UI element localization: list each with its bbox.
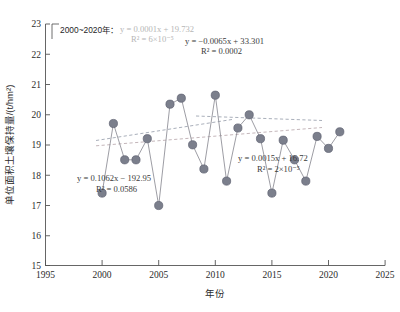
equation-lower-left: y = 0.1062x − 192.95 xyxy=(77,173,151,183)
x-tick-label: 2020 xyxy=(319,270,338,280)
period-label: 2000~2020年： xyxy=(60,25,118,35)
x-axis-ticks: 1995 2000 2005 2010 2015 2020 2025 xyxy=(36,260,395,280)
data-point xyxy=(109,119,117,127)
x-tick-label: 2025 xyxy=(376,270,395,280)
data-point xyxy=(200,165,208,173)
y-axis-ticks: 23 22 21 20 19 18 17 16 15 xyxy=(32,19,51,271)
y-axis-title: 单位面积土壤保持量/(t/hm²) xyxy=(4,85,15,206)
series-line xyxy=(102,95,340,205)
equation-lower-left-r2: R² = 0.0586 xyxy=(96,184,138,194)
x-tick-label: 2000 xyxy=(93,270,112,280)
data-point xyxy=(211,91,219,99)
equation-upper: y = −0.0065x + 33.301 xyxy=(185,36,264,46)
data-point xyxy=(223,177,231,185)
equation-faint-r2: R² = 6×10⁻⁵ xyxy=(131,34,174,44)
soil-conservation-line-chart: 23 22 21 20 19 18 17 16 15 1995 2000 200… xyxy=(0,0,400,312)
data-point xyxy=(177,94,185,102)
trendline-upper xyxy=(196,116,322,121)
equation-lower-right-r2: R² = 2×10⁻⁵ xyxy=(257,164,300,174)
equation-lower-right: y = 0.0015x + 16.72 xyxy=(238,153,308,163)
data-point xyxy=(302,177,310,185)
data-point xyxy=(245,111,253,119)
chart-figure: 23 22 21 20 19 18 17 16 15 1995 2000 200… xyxy=(0,0,400,312)
data-point xyxy=(256,135,264,143)
equation-faint: y = 0.0001x + 19.732 xyxy=(120,24,194,34)
data-point xyxy=(324,144,332,152)
x-axis-title: 年份 xyxy=(205,288,225,299)
data-point xyxy=(121,156,129,164)
y-tick-label: 17 xyxy=(32,201,42,211)
x-tick-label: 2015 xyxy=(262,270,281,280)
equation-upper-r2: R² = 0.0002 xyxy=(201,46,242,56)
y-tick-label: 16 xyxy=(32,231,42,241)
x-tick-label: 2005 xyxy=(149,270,168,280)
y-tick-label: 18 xyxy=(32,171,42,181)
trendlines xyxy=(96,116,322,146)
data-point xyxy=(313,132,321,140)
data-point xyxy=(234,124,242,132)
y-tick-label: 20 xyxy=(32,110,42,120)
y-tick-label: 23 xyxy=(32,19,42,29)
x-tick-label: 2010 xyxy=(206,270,225,280)
bracket-icon xyxy=(52,24,59,39)
chart-axes xyxy=(46,24,386,266)
x-tick-label: 1995 xyxy=(36,270,55,280)
data-point xyxy=(336,128,344,136)
y-tick-label: 22 xyxy=(32,50,42,60)
data-point xyxy=(189,141,197,149)
data-point xyxy=(268,189,276,197)
data-point xyxy=(132,156,140,164)
y-tick-label: 19 xyxy=(32,140,42,150)
annotation-group: 2000~2020年： y = 0.0001x + 19.732 R² = 6×… xyxy=(52,24,308,194)
y-tick-label: 21 xyxy=(32,80,42,90)
data-point xyxy=(143,135,151,143)
data-point xyxy=(155,201,163,209)
data-point xyxy=(279,136,287,144)
data-point xyxy=(166,100,174,108)
